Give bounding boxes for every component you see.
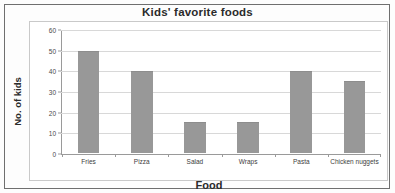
x-axis-category-label: Salad xyxy=(168,154,221,179)
x-axis-category-text: Fries xyxy=(81,158,95,165)
y-axis-tick-mark xyxy=(58,30,61,31)
x-axis-category-label: Chicken nuggets xyxy=(328,154,381,179)
y-axis-tick-mark xyxy=(58,71,61,72)
y-axis-tick-mark xyxy=(58,133,61,134)
y-axis-tick-label: 0 xyxy=(52,151,56,158)
y-axis-tick-label: 60 xyxy=(49,27,56,34)
x-axis-category-text: Chicken nuggets xyxy=(330,158,378,165)
bar[interactable] xyxy=(290,71,312,153)
x-axis-tick-mark xyxy=(222,154,223,157)
y-axis-tick-mark xyxy=(58,112,61,113)
bar-chart-figure: Kids' favorite foods No. of kids 6050403… xyxy=(0,0,395,193)
bar[interactable] xyxy=(237,122,259,153)
y-axis-tick-mark xyxy=(58,50,61,51)
bar-slot xyxy=(222,30,275,153)
bars-container xyxy=(62,30,381,153)
plot-area: 6050403020100 FriesPizzaSaladWrapsPastaC… xyxy=(29,21,388,181)
y-axis-tick-label: 30 xyxy=(49,89,56,96)
grid-area: 6050403020100 xyxy=(61,30,381,154)
x-axis-category-text: Salad xyxy=(187,158,204,165)
y-axis-tick-label: 20 xyxy=(49,109,56,116)
y-axis-tick-label: 10 xyxy=(49,130,56,137)
x-axis-tick-mark xyxy=(62,154,63,157)
bar[interactable] xyxy=(184,122,206,153)
x-axis-title: Food xyxy=(29,179,389,191)
x-axis-tick-mark xyxy=(168,154,169,157)
x-axis-category-text: Wraps xyxy=(239,158,258,165)
x-axis-category-label: Pasta xyxy=(275,154,328,179)
y-axis-tick-mark xyxy=(58,154,61,155)
y-axis-title: No. of kids xyxy=(9,53,25,149)
bar[interactable] xyxy=(78,51,100,154)
bar-slot xyxy=(115,30,168,153)
y-axis-title-text: No. of kids xyxy=(12,77,23,126)
y-axis-tick-label: 40 xyxy=(49,68,56,75)
bar-slot xyxy=(168,30,221,153)
x-axis-tick-mark-end xyxy=(380,154,381,157)
x-axis-category-labels: FriesPizzaSaladWrapsPastaChicken nuggets xyxy=(62,154,381,179)
bar-slot xyxy=(275,30,328,153)
y-axis-tick-label: 50 xyxy=(49,47,56,54)
x-axis-tick-mark xyxy=(328,154,329,157)
x-axis-tick-mark xyxy=(275,154,276,157)
y-axis-tick-mark xyxy=(58,92,61,93)
x-axis-category-label: Wraps xyxy=(222,154,275,179)
bar[interactable] xyxy=(131,71,153,153)
bar-slot xyxy=(328,30,381,153)
x-axis-category-text: Pizza xyxy=(134,158,150,165)
bar-slot xyxy=(62,30,115,153)
x-axis-category-label: Pizza xyxy=(115,154,168,179)
chart-title: Kids' favorite foods xyxy=(0,6,395,18)
bar[interactable] xyxy=(344,81,366,153)
x-axis-tick-mark xyxy=(115,154,116,157)
x-axis-category-label: Fries xyxy=(62,154,115,179)
x-axis-category-text: Pasta xyxy=(293,158,310,165)
